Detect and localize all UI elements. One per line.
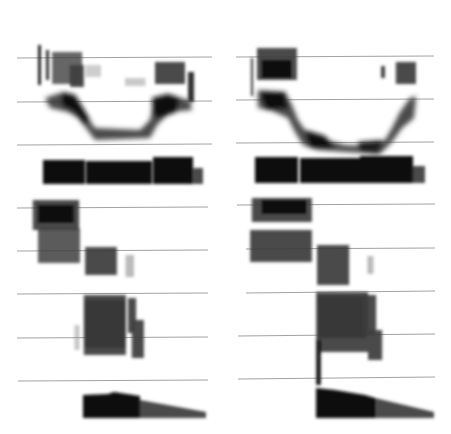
formant-segments (75, 247, 144, 358)
spectrogram-bottom-right (237, 198, 435, 418)
spectrogram-bottom-left (17, 200, 208, 418)
spectrogram-top-right (236, 48, 434, 183)
formant-segments (316, 245, 382, 385)
voice-bar (255, 156, 425, 183)
voice-bar (316, 388, 434, 418)
frication-noise (250, 198, 312, 262)
spectrogram-figure (0, 0, 451, 434)
high-formant-bursts (251, 48, 416, 96)
frication-noise (33, 200, 80, 263)
spectrogram-top-left (17, 45, 212, 184)
voice-bar (83, 392, 206, 418)
voice-bar (43, 157, 203, 184)
formant-trajectory (45, 92, 192, 140)
